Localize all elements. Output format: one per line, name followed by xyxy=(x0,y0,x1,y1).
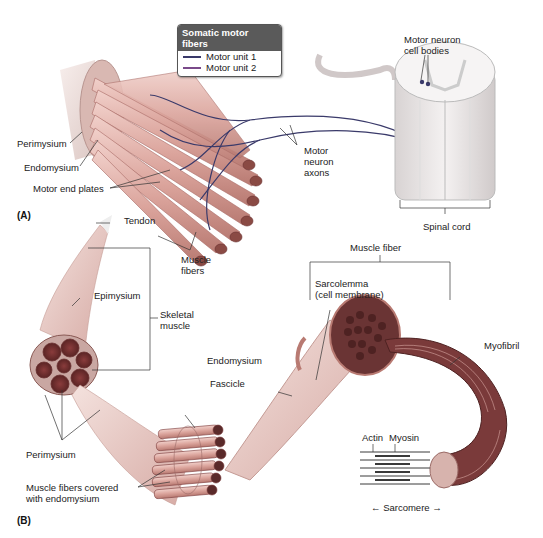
spinal-cord xyxy=(318,42,495,200)
label-perimysium-b: Perimysium xyxy=(26,449,76,460)
label-myosin: Myosin xyxy=(389,432,419,443)
legend-item-motor-unit-2: Motor unit 2 xyxy=(178,62,281,76)
label-motor-neuron-cell-bodies: Motor neuron cell bodies xyxy=(404,34,461,56)
label-epimysium: Epimysium xyxy=(94,290,140,301)
panel-tag-a: (A) xyxy=(17,210,31,221)
label-sarcolemma: Sarcolemma (cell membrane) xyxy=(315,278,384,300)
legend-label: Motor unit 2 xyxy=(206,62,256,73)
label-perimysium-a: Perimysium xyxy=(17,138,67,149)
legend-swatch-icon xyxy=(183,56,201,58)
muscle-anatomy-illustration xyxy=(0,0,543,538)
sarcomere-filaments xyxy=(360,452,430,484)
label-skeletal-muscle: Skeletal muscle xyxy=(160,309,194,331)
label-actin: Actin xyxy=(362,432,383,443)
cropped-caption xyxy=(0,530,543,538)
label-endomysium-b: Endomysium xyxy=(207,355,262,366)
panel-tag-b: (B) xyxy=(17,515,31,526)
label-muscle-fibers-covered: Muscle fibers covered with endomysium xyxy=(26,482,118,504)
label-spinal-cord: Spinal cord xyxy=(423,221,471,232)
legend-somatic-motor-fibers: Somatic motor fibers Motor unit 1 Motor … xyxy=(177,24,282,77)
label-muscle-fiber: Muscle fiber xyxy=(350,242,401,253)
label-motor-end-plates: Motor end plates xyxy=(33,183,104,194)
label-sarcomere: ← Sarcomere → xyxy=(371,502,442,513)
myofibril xyxy=(385,338,507,488)
label-motor-neuron-axons: Motor neuron axons xyxy=(304,145,334,178)
label-tendon: Tendon xyxy=(124,215,155,226)
legend-item-motor-unit-1: Motor unit 1 xyxy=(178,51,281,62)
legend-label: Motor unit 1 xyxy=(206,51,256,62)
label-fascicle: Fascicle xyxy=(210,378,245,389)
legend-swatch-icon xyxy=(183,67,201,69)
legend-title: Somatic motor fibers xyxy=(178,25,281,51)
label-myofibril: Myofibril xyxy=(484,340,519,351)
label-endomysium-a: Endomysium xyxy=(24,162,79,173)
label-muscle-fibers-a: Muscle fibers xyxy=(181,254,211,276)
